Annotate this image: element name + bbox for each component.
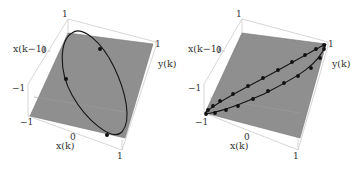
right-z-bottom-tick: −1 [188,83,201,93]
left-plot: 1 x(k−1) 0 −1 −1 0 x(k) 1 1 y(k) [12,9,177,161]
right-plot: 1 x(k−1) 0 −1 −1 0 x(k) 1 1 y(k) [188,9,351,161]
left-z-mid-tick: 0 [41,45,47,55]
right-x-left-tick: −1 [195,117,208,127]
left-z-bottom-tick: −1 [12,83,25,93]
right-z-mid-tick: 0 [216,45,222,55]
right-y-axis-label: y(k) [331,58,351,69]
left-data-point [98,47,102,51]
right-plane [205,33,326,138]
left-data-point [64,77,68,81]
right-x-right-tick: 1 [293,151,299,161]
left-y-tick: 1 [155,39,161,49]
figure: 1 x(k−1) 0 −1 −1 0 x(k) 1 1 y(k) [0,0,361,171]
right-y-tick: 1 [328,39,334,49]
left-x-left-tick: −1 [20,117,33,127]
left-x-right-tick: 1 [117,151,123,161]
right-x-axis-label: x(k) [230,140,249,151]
left-y-axis-label: y(k) [157,58,177,69]
left-x-axis-label: x(k) [56,140,75,151]
left-plane [30,33,153,138]
left-data-point [105,133,109,137]
left-z-top-tick: 1 [62,9,68,19]
right-z-top-tick: 1 [236,9,242,19]
